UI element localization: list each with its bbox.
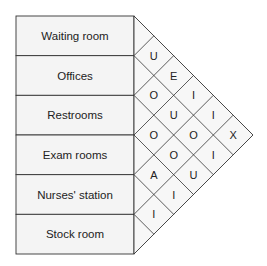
department-label: Exam rooms [43,149,108,161]
relationship-code: O [189,129,198,141]
relationship-code: O [169,149,178,161]
relationship-code: A [150,169,158,181]
relationship-code: I [172,189,175,201]
relationship-code: I [152,208,155,220]
relationship-code: O [150,129,159,141]
department-label: Stock room [46,228,104,240]
relationship-code: U [150,50,158,62]
relationship-code: I [212,149,215,161]
relationship-code: U [170,109,178,121]
relationship-code: I [192,89,195,101]
department-label: Nurses' station [37,189,113,201]
relationship-code: I [212,109,215,121]
department-label: Offices [57,70,93,82]
department-boxes: Waiting roomOfficesRestroomsExam roomsNu… [16,16,134,254]
relationship-code: E [170,70,177,82]
department-label: Waiting room [41,30,108,42]
relationship-code: U [190,169,198,181]
department-label: Restrooms [47,109,103,121]
relationship-code: O [150,89,159,101]
relationship-code: X [229,129,237,141]
relationship-chart: Waiting roomOfficesRestroomsExam roomsNu… [0,0,267,266]
